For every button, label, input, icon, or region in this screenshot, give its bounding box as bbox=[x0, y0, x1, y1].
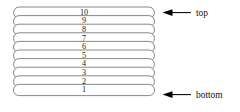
plate-group-1: 1 bbox=[14, 84, 155, 95]
bottom-pointer-arrow-icon bbox=[163, 91, 192, 98]
bottom-pointer-label: bottom bbox=[196, 91, 223, 100]
top-pointer-label: top bbox=[196, 9, 208, 18]
bottom-arrow-head bbox=[163, 91, 173, 98]
stack-diagram-figure: 10 9 8 7 6 5 4 3 bbox=[0, 0, 240, 112]
plate-label-1: 1 bbox=[82, 85, 86, 94]
top-pointer-arrow-icon bbox=[163, 9, 192, 16]
top-arrow-head bbox=[163, 9, 173, 16]
